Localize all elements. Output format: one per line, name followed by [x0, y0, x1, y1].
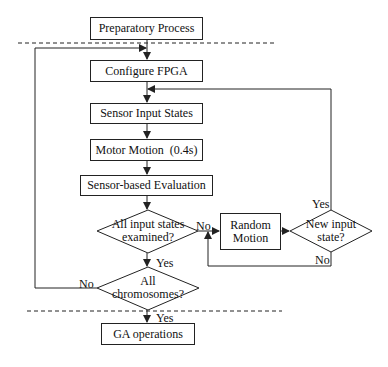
edge-label-states-no: No — [196, 220, 211, 232]
node-motor-motion: Motor Motion (0.4s) — [90, 139, 203, 161]
edge-label-chrom-no: No — [79, 278, 94, 290]
node-sensor-evaluation: Sensor-based Evaluation — [80, 175, 213, 196]
node-ga-operations: GA operations — [101, 323, 195, 345]
edge-label-chrom-yes: Yes — [156, 312, 173, 324]
node-random-motion: Random Motion — [220, 213, 281, 250]
node-label: Preparatory Process — [99, 22, 195, 35]
decision-label: state? — [291, 231, 371, 244]
edge-label-new-no: No — [315, 254, 330, 266]
edge-label-states-yes: Yes — [156, 257, 173, 269]
node-label: Sensor Input States — [100, 107, 193, 120]
node-sensor-input-states: Sensor Input States — [90, 103, 203, 124]
node-label: Motion — [233, 232, 268, 245]
decision-new-input-text: New input state? — [291, 218, 371, 244]
node-label: GA operations — [113, 328, 183, 341]
decision-all-chromosomes-text: All chromosomes? — [98, 275, 198, 301]
edge-label-new-yes: Yes — [312, 198, 329, 210]
decision-label: examined? — [98, 231, 198, 244]
node-label: Configure FPGA — [105, 65, 187, 78]
decision-all-states-text: All input states examined? — [98, 218, 198, 244]
node-configure-fpga: Configure FPGA — [90, 60, 203, 82]
node-label: Sensor-based Evaluation — [87, 179, 206, 192]
node-preparatory-process: Preparatory Process — [90, 17, 203, 40]
node-label: Motor Motion (0.4s) — [96, 144, 198, 157]
node-label: Random — [230, 219, 271, 232]
decision-label: chromosomes? — [98, 288, 198, 301]
